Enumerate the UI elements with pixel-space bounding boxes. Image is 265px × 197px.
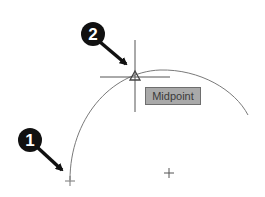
drawing-canvas: 2 1 bbox=[0, 0, 265, 197]
svg-text:2: 2 bbox=[88, 25, 97, 44]
snap-tooltip: Midpoint bbox=[145, 87, 201, 105]
center-point-marker bbox=[164, 168, 174, 178]
svg-text:1: 1 bbox=[25, 131, 34, 150]
callout-1: 1 bbox=[18, 128, 62, 170]
start-point-marker bbox=[65, 176, 75, 186]
cad-diagram: 2 1 Midpoint bbox=[0, 0, 265, 197]
callout-2: 2 bbox=[81, 22, 126, 64]
